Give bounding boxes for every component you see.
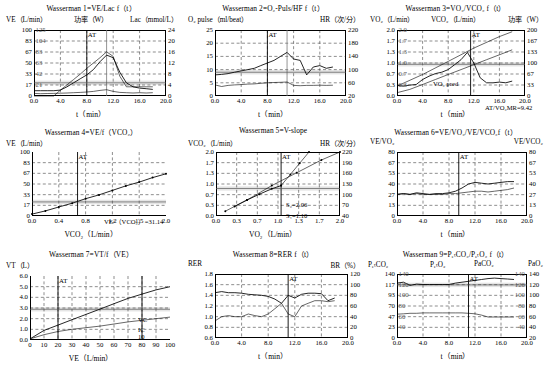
x-tick: 20.0 [340, 98, 352, 105]
y-tick-right: 40 [350, 313, 357, 320]
plot-svg [216, 152, 340, 216]
y-tick-left: 70 [388, 303, 395, 310]
x-tick: 12.0 [469, 218, 481, 225]
y-tick-left: 0.3 [387, 82, 396, 89]
y-tick-right-inner: 100 [515, 292, 525, 299]
x-tick: 20.0 [521, 340, 533, 347]
y-tick-left: 1.7 [206, 159, 215, 166]
x-tick: 16.0 [495, 218, 507, 225]
x-tick: 8.0 [264, 340, 273, 347]
x-tick: 16.0 [493, 98, 505, 105]
plot-annotation: AT/VO₂MR=9.42 [485, 104, 532, 111]
y-tick-right: 4 [168, 82, 171, 89]
x-tick: 20.0 [160, 98, 172, 105]
panel-wasserman-7: Wasserman 7=VT/f（VE）VT（L）ATVCIC106.05.04… [0, 246, 182, 372]
panel-wasserman-8: Wasserman 8=RER f（t）RERBR（%）AT1.81.61.41… [182, 246, 364, 372]
y-tick-left: 100 [20, 149, 30, 156]
x-tick: 0.0 [212, 218, 221, 225]
y-tick-right: 8 [168, 71, 171, 78]
y-tick-left: 1.8 [205, 271, 214, 278]
y-tick-right: 100 [350, 281, 360, 288]
y-tick-left: 3.0 [20, 305, 29, 312]
y-tick-left: 33 [23, 191, 30, 198]
x-tick: 4.0 [237, 98, 246, 105]
panel-wasserman-2: Wasserman 2=O₂-Puls/HF f（t）O₂ pulse（ml/b… [182, 0, 364, 124]
y-tick-left: 20 [206, 40, 213, 47]
y-tick-inner: 125 [36, 27, 46, 34]
x-tick: 0.0 [28, 218, 37, 225]
x-tick: 10 [41, 342, 48, 349]
y-tick-right: 60 [348, 79, 355, 86]
x-tick: 16.0 [495, 340, 507, 347]
y-tick-left: 6.0 [20, 273, 29, 280]
y-tick-right: 100 [348, 66, 358, 73]
x-tick: 16.0 [315, 340, 327, 347]
y-axis-label-right: HR（次/分） [320, 138, 360, 148]
y-tick-left: 2.0 [206, 149, 215, 156]
y-tick-inner: 1.0 [399, 60, 408, 67]
y-tick-right: 24 [168, 27, 175, 34]
panel-title: Wasserman 4=VE/f（VCO₂） [0, 126, 182, 137]
y-tick-right: 33 [527, 82, 534, 89]
y-tick-left: 1.4 [205, 292, 214, 299]
y-tick-right: 200 [527, 27, 537, 34]
y-tick-left: 0.8 [205, 324, 214, 331]
y-tick-right: 220 [342, 149, 352, 156]
y-axis-label-right: 功率（W） [508, 14, 543, 24]
x-tick: 8.0 [445, 218, 454, 225]
y-axis-label-c1: PₑₜO₂ [430, 260, 446, 269]
y-axis-label-left: PₑₜCO₂ [368, 260, 388, 269]
plot-area: 806753402713080675340271300.04.08.012.01… [397, 152, 527, 216]
y-tick-right-inner: 140 [515, 271, 525, 278]
y-tick-left: 1.2 [205, 303, 214, 310]
y-tick-left: 10 [206, 66, 213, 73]
y-axis-label-left: VE/VO₂ [370, 138, 394, 146]
plot-svg [397, 30, 525, 96]
x-tick: 0.8 [81, 218, 90, 225]
y-tick-left: 0.3 [206, 202, 215, 209]
x-tick: 12.0 [107, 98, 119, 105]
y-tick-left: 25 [206, 27, 213, 34]
x-tick: 8.0 [445, 340, 454, 347]
y-tick-right: 13 [529, 202, 536, 209]
x-tick: 0.0 [393, 218, 402, 225]
y-tick-left: 140 [385, 271, 395, 278]
y-tick-right: 160 [342, 170, 352, 177]
y-tick-left: 1.0 [206, 181, 215, 188]
x-tick: 0.4 [55, 218, 64, 225]
y-tick-right: 133 [527, 49, 537, 56]
panel-title: Wasserman 1=VE/Lac f（t） [0, 2, 182, 13]
y-axis-label-c2: PaCO₂ [474, 260, 494, 268]
y-tick-inner: 63 [36, 60, 43, 67]
x-axis-label: t（min） [258, 108, 288, 119]
x-tick: 1.2 [108, 218, 117, 225]
x-tick: 0.3 [232, 218, 241, 225]
y-tick-left: 83 [23, 159, 30, 166]
x-tick: 8.0 [83, 98, 92, 105]
y-tick-left: 117 [385, 281, 395, 288]
y-tick-left: 0.0 [20, 337, 29, 344]
y-tick-right: 120 [529, 281, 539, 288]
y-tick-inner: 0.7 [399, 71, 408, 78]
x-tick: 4.0 [56, 98, 65, 105]
y-tick-left: 67 [388, 159, 395, 166]
x-tick: 0 [28, 342, 31, 349]
x-tick: 1.5 [135, 218, 144, 225]
y-tick-inner: 2.0 [399, 27, 408, 34]
plot-area: 6.05.04.03.02.01.00.00102030405060708090… [30, 276, 170, 340]
x-tick: 2.0 [162, 218, 171, 225]
x-tick: 0.0 [211, 340, 220, 347]
x-tick: 80 [139, 342, 146, 349]
x-tick: 2.0 [336, 218, 345, 225]
plot-svg [34, 30, 166, 96]
y-tick-right: 20 [350, 324, 357, 331]
y-tick-left: 13 [388, 202, 395, 209]
y-tick-right: 60 [529, 313, 536, 320]
y-tick-left: 5 [210, 79, 213, 86]
wasserman-nine-panel-figure: Wasserman 1=VE/Lac f（t）VE（L/min）功率（W）Lac… [0, 0, 547, 372]
plot-area: 252015105022018014010060200.04.08.012.01… [215, 30, 346, 96]
y-tick-left: 33 [25, 71, 32, 78]
panel-wasserman-5: Wasserman 5=V-slopeVCO₂（L/min）HR（次/分）ATS… [182, 124, 364, 246]
plot-svg [397, 152, 527, 216]
x-tick: 12.0 [288, 98, 300, 105]
